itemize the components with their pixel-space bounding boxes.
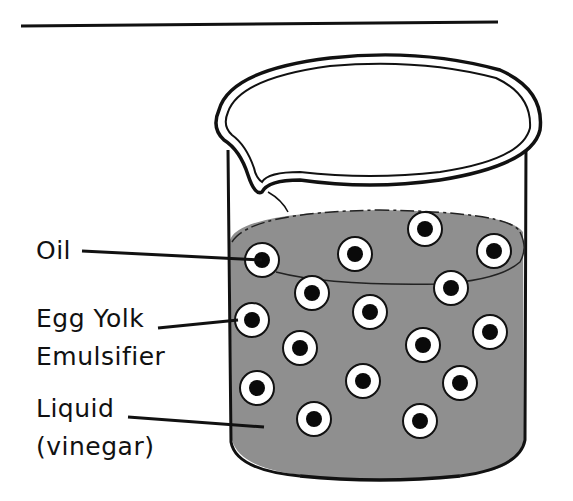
oil-droplet [297, 402, 331, 436]
label-liquid-line1: Liquid [36, 390, 154, 428]
oil-droplet [346, 364, 380, 398]
oil-droplet [240, 371, 274, 405]
label-oil: Oil [36, 236, 71, 266]
label-oil-text: Oil [36, 236, 71, 265]
oil-droplet [434, 271, 468, 305]
oil-droplet [408, 212, 442, 246]
label-emulsifier: Egg Yolk Emulsifier [36, 300, 165, 376]
label-liquid-line2: (vinegar) [36, 428, 154, 466]
oil-droplet [473, 315, 507, 349]
oil-droplet [235, 303, 269, 337]
emulsifier-leader-line [158, 320, 238, 328]
label-emulsifier-line2: Emulsifier [36, 338, 165, 376]
oil-droplet [477, 234, 511, 268]
emulsion-diagram: Oil Egg Yolk Emulsifier Liquid (vinegar) [0, 0, 573, 501]
label-emulsifier-line1: Egg Yolk [36, 300, 165, 338]
spout-drip [268, 192, 288, 212]
label-liquid: Liquid (vinegar) [36, 390, 154, 466]
oil-droplet [403, 404, 437, 438]
oil-droplet [353, 295, 387, 329]
oil-droplet [443, 366, 477, 400]
oil-droplet [283, 331, 317, 365]
oil-droplet [338, 237, 372, 271]
oil-droplet [295, 276, 329, 310]
top-rule [21, 22, 498, 26]
oil-droplet [406, 328, 440, 362]
